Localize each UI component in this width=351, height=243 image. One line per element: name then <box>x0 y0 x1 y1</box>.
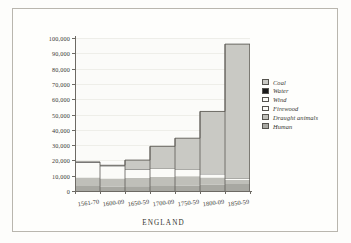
figure-plate-frame: 010,00020,00030,00040,00050,00060,00070,… <box>12 8 338 232</box>
y-tick-label: 40,000 <box>52 126 70 133</box>
x-tick-mark <box>175 191 176 194</box>
legend-item-draught-animals[interactable]: Draught animals <box>262 113 348 121</box>
legend-swatch-human <box>262 123 269 129</box>
x-tick-mark <box>100 191 101 194</box>
y-tick-label: 50,000 <box>52 111 70 118</box>
legend-label: Wind <box>273 96 287 103</box>
x-tick-mark <box>75 191 76 194</box>
x-tick-label: 1850-59 <box>227 198 249 208</box>
x-tick-label: 1700-09 <box>152 198 174 208</box>
legend-swatch-wind <box>262 97 269 103</box>
y-tick-label: 0 <box>67 188 70 195</box>
legend-item-water[interactable]: Water <box>262 87 348 95</box>
legend-label: Draught animals <box>273 114 318 121</box>
y-tick-label: 60,000 <box>52 96 70 103</box>
legend-label: Firewood <box>273 105 298 112</box>
x-tick-mark <box>225 191 226 194</box>
x-tick-label: 1600-09 <box>102 198 124 208</box>
legend-item-wind[interactable]: Wind <box>262 96 348 104</box>
legend-swatch-draught-animals <box>262 114 269 120</box>
legend-item-firewood[interactable]: Firewood <box>262 104 348 112</box>
figure-root: 010,00020,00030,00040,00050,00060,00070,… <box>0 0 351 243</box>
legend-label: Human <box>273 123 292 130</box>
y-tick-label: 80,000 <box>52 65 70 72</box>
y-axis-line <box>75 36 76 193</box>
y-tick-label: 90,000 <box>52 50 70 57</box>
legend-swatch-coal <box>262 79 269 85</box>
y-tick-label: 70,000 <box>52 80 70 87</box>
x-tick-label: 1750-59 <box>177 198 199 208</box>
legend-label: Coal <box>273 79 286 86</box>
x-tick-label: 1561-70 <box>77 198 99 208</box>
legend-item-human[interactable]: Human <box>262 122 348 130</box>
chart-caption: ENGLAND <box>75 219 252 227</box>
legend-swatch-water <box>262 88 269 94</box>
chart-legend: CoalWaterWindFirewoodDraught animalsHuma… <box>262 78 348 131</box>
plot-area: 010,00020,00030,00040,00050,00060,00070,… <box>75 38 250 191</box>
y-tick-label: 20,000 <box>52 157 70 164</box>
legend-label: Water <box>273 87 289 94</box>
x-tick-mark <box>200 191 201 194</box>
legend-swatch-firewood <box>262 106 269 112</box>
x-tick-label: 1800-09 <box>202 198 224 208</box>
legend-item-coal[interactable]: Coal <box>262 78 348 86</box>
x-tick-mark <box>250 191 251 194</box>
y-tick-label: 100,000 <box>49 35 70 42</box>
x-tick-mark <box>125 191 126 194</box>
y-tick-label: 30,000 <box>52 142 70 149</box>
stacked-series-layers <box>75 38 250 191</box>
x-tick-mark <box>150 191 151 194</box>
x-tick-label: 1650-59 <box>127 198 149 208</box>
y-tick-label: 10,000 <box>52 172 70 179</box>
